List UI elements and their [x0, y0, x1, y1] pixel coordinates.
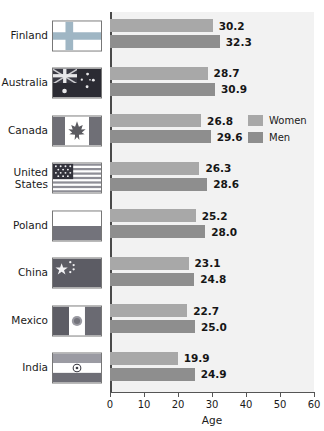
bar-value-men: 28.0: [211, 226, 237, 238]
bar-women: 23.1: [110, 257, 189, 270]
flag-mexico-icon: [52, 305, 102, 336]
bar-rect-men: [110, 130, 211, 143]
bar-group: 25.228.0: [110, 202, 324, 250]
legend-swatch-men: [248, 132, 263, 143]
bar-women: 28.7: [110, 67, 208, 80]
bar-men: 30.9: [110, 83, 215, 96]
bar-group: 19.924.9: [110, 345, 324, 393]
bar-rect-women: [110, 209, 196, 222]
bar-rect-men: [110, 178, 207, 191]
chart-row: Finland30.232.3: [0, 12, 324, 60]
bar-women: 30.2: [110, 19, 213, 32]
chart-row: Australia28.730.9: [0, 60, 324, 108]
horizontal-bar-chart: Finland30.232.3Australia28.730.9Canada26…: [0, 0, 324, 431]
bar-men: 25.0: [110, 320, 195, 333]
x-axis-title: Age: [110, 414, 314, 426]
chart-rows: Finland30.232.3Australia28.730.9Canada26…: [0, 12, 324, 392]
chart-row: Mexico22.725.0: [0, 297, 324, 345]
bar-rect-men: [110, 35, 220, 48]
x-tick-label: 50: [274, 399, 287, 410]
legend-label-women: Women: [269, 115, 307, 126]
bar-rect-men: [110, 273, 194, 286]
x-tick: [144, 392, 145, 397]
bar-rect-men: [110, 83, 215, 96]
bar-value-women: 26.8: [207, 115, 233, 127]
x-axis: 0102030405060: [110, 392, 314, 398]
bar-men: 24.9: [110, 368, 195, 381]
bar-rect-men: [110, 320, 195, 333]
x-tick-label: 10: [138, 399, 151, 410]
bar-value-men: 24.9: [201, 368, 227, 380]
flag-china-icon: [52, 258, 102, 289]
bar-men: 28.0: [110, 225, 205, 238]
category-label-canada: Canada: [0, 125, 48, 137]
bar-women: 25.2: [110, 209, 196, 222]
bar-group: 26.328.6: [110, 155, 324, 203]
bar-rect-women: [110, 304, 187, 317]
bar-value-men: 28.6: [213, 178, 239, 190]
bar-value-women: 19.9: [184, 352, 210, 364]
chart-row: United States26.328.6: [0, 155, 324, 203]
flag-finland-icon: [52, 20, 102, 51]
legend-swatch-women: [248, 115, 263, 126]
bar-rect-men: [110, 368, 195, 381]
bar-value-men: 29.6: [217, 131, 243, 143]
x-tick: [246, 392, 247, 397]
bar-rect-women: [110, 257, 189, 270]
flag-australia-icon: [52, 68, 102, 99]
legend-label-men: Men: [269, 132, 290, 143]
category-label-india: India: [0, 363, 48, 375]
chart-row: India19.924.9: [0, 345, 324, 393]
flag-poland-icon: [52, 210, 102, 241]
category-label-australia: Australia: [0, 78, 48, 90]
category-label-mexico: Mexico: [0, 315, 48, 327]
bar-value-men: 32.3: [226, 36, 252, 48]
x-tick: [314, 392, 315, 397]
category-label-united-states: United States: [0, 167, 48, 190]
x-tick-label: 30: [206, 399, 219, 410]
bar-value-men: 30.9: [221, 83, 247, 95]
bar-value-men: 24.8: [200, 273, 226, 285]
x-tick: [178, 392, 179, 397]
bar-women: 19.9: [110, 352, 178, 365]
bar-value-women: 26.3: [205, 162, 231, 174]
x-tick: [110, 392, 111, 397]
bar-group: 22.725.0: [110, 297, 324, 345]
bar-value-women: 23.1: [195, 257, 221, 269]
chart-row: China23.124.8: [0, 250, 324, 298]
chart-legend: Women Men: [248, 113, 307, 147]
bar-value-women: 22.7: [193, 305, 219, 317]
chart-row: Poland25.228.0: [0, 202, 324, 250]
bar-women: 26.3: [110, 162, 199, 175]
category-label-china: China: [0, 268, 48, 280]
x-tick: [212, 392, 213, 397]
bar-rect-women: [110, 114, 201, 127]
bar-rect-men: [110, 225, 205, 238]
x-tick-label: 40: [240, 399, 253, 410]
bar-rect-women: [110, 19, 213, 32]
flag-usa-icon: [52, 163, 102, 194]
bar-men: 32.3: [110, 35, 220, 48]
bar-value-men: 25.0: [201, 321, 227, 333]
flag-canada-icon: [52, 115, 102, 146]
bar-value-women: 30.2: [219, 20, 245, 32]
legend-item-women: Women: [248, 113, 307, 128]
bar-rect-women: [110, 352, 178, 365]
bar-men: 24.8: [110, 273, 194, 286]
x-tick: [280, 392, 281, 397]
flag-india-icon: [52, 353, 102, 384]
bar-rect-women: [110, 162, 199, 175]
bar-group: 28.730.9: [110, 60, 324, 108]
x-tick-label: 60: [308, 399, 321, 410]
x-tick-label: 20: [172, 399, 185, 410]
legend-item-men: Men: [248, 130, 307, 145]
bar-men: 29.6: [110, 130, 211, 143]
bar-rect-women: [110, 67, 208, 80]
bar-women: 22.7: [110, 304, 187, 317]
bar-group: 23.124.8: [110, 250, 324, 298]
bar-women: 26.8: [110, 114, 201, 127]
bar-value-women: 28.7: [214, 67, 240, 79]
x-tick-label: 0: [107, 399, 113, 410]
category-label-finland: Finland: [0, 30, 48, 42]
bar-group: 30.232.3: [110, 12, 324, 60]
